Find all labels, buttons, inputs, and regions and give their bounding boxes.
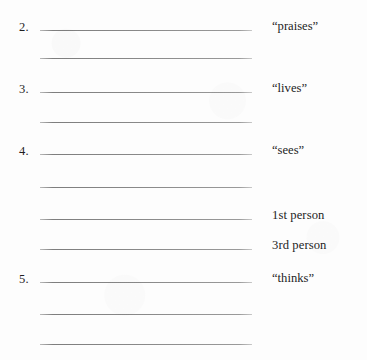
scan-noise-overlay	[0, 0, 367, 360]
item-number: 5.	[19, 273, 41, 286]
item-number: 4.	[19, 145, 41, 158]
answer-prompt-label: “sees”	[272, 144, 304, 157]
answer-blank-line[interactable]	[40, 314, 252, 315]
answer-blank-line[interactable]	[40, 58, 252, 59]
answer-blank-line[interactable]	[40, 154, 252, 155]
answer-prompt-label: “praises”	[272, 20, 318, 33]
answer-blank-line[interactable]	[40, 249, 252, 250]
answer-blank-line[interactable]	[40, 282, 252, 283]
worksheet-page: 2.“praises”3.“lives”4.“sees”1st person3r…	[0, 0, 367, 360]
item-number: 2.	[19, 21, 41, 34]
answer-prompt-label: “lives”	[272, 82, 307, 95]
answer-blank-line[interactable]	[40, 187, 252, 188]
answer-blank-line[interactable]	[40, 30, 252, 31]
answer-blank-line[interactable]	[40, 344, 252, 345]
answer-prompt-label: 3rd person	[272, 239, 327, 252]
answer-prompt-label: 1st person	[272, 209, 324, 222]
answer-blank-line[interactable]	[40, 92, 252, 93]
answer-blank-line[interactable]	[40, 122, 252, 123]
answer-prompt-label: “thinks”	[272, 272, 314, 285]
item-number: 3.	[19, 83, 41, 96]
answer-blank-line[interactable]	[40, 219, 252, 220]
